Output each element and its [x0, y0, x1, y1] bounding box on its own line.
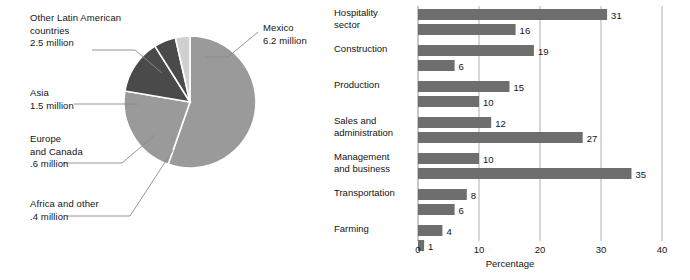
bar-category-label: Construction	[334, 43, 416, 55]
bar[interactable]	[418, 132, 583, 143]
pie-label-other-latin: Other Latin American countries 2.5 milli…	[30, 12, 170, 50]
bar[interactable]	[418, 96, 479, 107]
bar[interactable]	[418, 189, 467, 200]
bar-category-label: Transportation	[334, 187, 416, 199]
bar-value-label: 15	[514, 82, 525, 93]
bar-value-label: 35	[636, 169, 647, 180]
bar-value-label: 10	[483, 97, 494, 108]
pie-label-europe-canada: Europe and Canada .6 million	[30, 133, 130, 171]
bar[interactable]	[418, 9, 607, 20]
bar-category-label: Farming	[334, 223, 416, 235]
bar-value-label: 12	[495, 118, 506, 129]
bar-value-label: 6	[459, 61, 464, 72]
bar-value-label: 6	[459, 205, 464, 216]
figure-root: Other Latin American countries 2.5 milli…	[0, 0, 690, 280]
bar-value-label: 4	[446, 226, 451, 237]
bar-category-label: Management and business	[334, 151, 416, 175]
x-tick-label: 30	[586, 244, 616, 255]
bar-category-label: Hospitality sector	[334, 7, 416, 31]
bar[interactable]	[418, 204, 455, 215]
bar-rectangles	[418, 9, 632, 251]
x-tick-label: 10	[464, 244, 494, 255]
pie-label-asia: Asia 1.5 million	[30, 87, 130, 112]
bar[interactable]	[418, 153, 479, 164]
bar[interactable]	[418, 225, 442, 236]
bar[interactable]	[418, 45, 534, 56]
x-tick-label: 40	[647, 244, 677, 255]
x-tick-label: 20	[525, 244, 555, 255]
bar-axis-title: Percentage	[330, 258, 690, 269]
bar[interactable]	[418, 117, 491, 128]
bar[interactable]	[418, 168, 632, 179]
bar-value-label: 8	[471, 190, 476, 201]
bar-value-label: 27	[587, 133, 598, 144]
bar[interactable]	[418, 24, 516, 35]
bar[interactable]	[418, 60, 455, 71]
pie-chart-panel: Other Latin American countries 2.5 milli…	[0, 0, 330, 280]
bar-chart-svg	[330, 0, 690, 280]
bar-value-label: 16	[520, 25, 531, 36]
x-tick-label: 0	[403, 244, 433, 255]
bar-value-label: 10	[483, 154, 494, 165]
bar-category-label: Production	[334, 79, 416, 91]
bar[interactable]	[418, 81, 510, 92]
bar-value-label: 31	[611, 10, 622, 21]
pie-label-africa-other: Africa and other .4 million	[30, 198, 160, 223]
pie-label-mexico: Mexico 6.2 million	[263, 22, 333, 47]
pie-slices	[124, 36, 256, 168]
bar-chart-panel: Hospitality sectorConstructionProduction…	[330, 0, 690, 280]
bar-value-label: 19	[538, 46, 549, 57]
bar-category-label: Sales and administration	[334, 115, 416, 139]
